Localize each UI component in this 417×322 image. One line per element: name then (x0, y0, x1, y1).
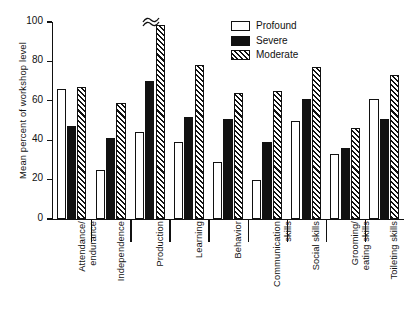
category-label-line: Communication (272, 221, 283, 321)
y-tick-label: 60 (32, 94, 43, 106)
hatched-square-icon (231, 50, 250, 60)
bar-profound (57, 89, 66, 219)
axis-break-icon (142, 17, 160, 31)
bar-profound (135, 132, 144, 219)
bar-group (57, 22, 87, 219)
legend-label: Severe (256, 35, 288, 47)
category-label-line: Toileting skills (389, 221, 400, 321)
bar-severe (145, 81, 154, 219)
bar-moderate (273, 91, 282, 219)
bar-profound (291, 121, 300, 220)
bar-moderate (234, 93, 243, 219)
category-label-line: Independence (116, 221, 127, 321)
bar-severe (184, 117, 193, 219)
bar-profound (174, 142, 183, 219)
bar-moderate (351, 128, 360, 219)
y-axis-title: Mean percent of workshop level (17, 11, 28, 211)
bar-severe (341, 148, 350, 219)
bar-severe (302, 99, 311, 219)
bar-severe (106, 138, 115, 219)
category-label: Independence (116, 221, 150, 321)
bar-severe (223, 119, 232, 219)
category-label: Toileting skills (389, 221, 417, 321)
category-label-line: skills (283, 221, 294, 321)
bar-group (174, 22, 204, 219)
bar-group (135, 22, 165, 219)
y-tick-label: 20 (32, 172, 43, 184)
bar-moderate (390, 75, 399, 219)
category-label: Social skills (311, 221, 345, 321)
category-label: Production (155, 221, 189, 321)
legend-item: Moderate (231, 48, 341, 63)
filled-square-icon (231, 36, 250, 46)
category-label: Communicationskills (272, 221, 306, 321)
category-label-line: Attendance/ (77, 221, 88, 321)
legend-label: Moderate (256, 49, 298, 61)
bar-moderate (156, 25, 165, 219)
open-square-icon (231, 21, 250, 31)
bar-severe (67, 126, 76, 219)
bar-group (369, 22, 399, 219)
bar-profound (213, 162, 222, 219)
bar-moderate (116, 103, 125, 219)
y-tick-label: 100 (26, 15, 43, 27)
bar-profound (96, 170, 105, 219)
category-label-line: endurance (88, 221, 99, 321)
y-tick-label: 0 (37, 212, 43, 224)
bar-chart: Mean percent of workshop level 020406080… (0, 0, 417, 322)
category-label-line: Production (155, 221, 166, 321)
category-label-line: Grooming/ (350, 221, 361, 321)
bar-profound (252, 180, 261, 219)
category-label: Learning (194, 221, 228, 321)
bar-groups (52, 22, 404, 219)
plot-area: 020406080100 (52, 22, 404, 219)
category-label-line: Behavior (233, 221, 244, 321)
legend-item: Severe (231, 34, 341, 49)
category-labels: Attendance/enduranceIndependenceProducti… (52, 221, 404, 321)
category-label-line: eating skills (361, 221, 372, 321)
category-label-line: Learning (194, 221, 205, 321)
category-label: Attendance/endurance (77, 221, 111, 321)
bar-moderate (312, 67, 321, 219)
category-label: Grooming/eating skills (350, 221, 384, 321)
bar-severe (262, 142, 271, 219)
y-tick-label: 80 (32, 54, 43, 66)
category-label-line: Social skills (311, 221, 322, 321)
y-tick-label: 40 (32, 133, 43, 145)
bar-moderate (195, 65, 204, 219)
legend-label: Profound (256, 20, 297, 32)
bar-profound (369, 99, 378, 219)
category-label: Behavior (233, 221, 267, 321)
bar-profound (330, 154, 339, 219)
bar-moderate (77, 87, 86, 219)
bar-group (96, 22, 126, 219)
legend: ProfoundSevereModerate (231, 19, 341, 63)
legend-item: Profound (231, 19, 341, 34)
bar-severe (380, 119, 389, 219)
